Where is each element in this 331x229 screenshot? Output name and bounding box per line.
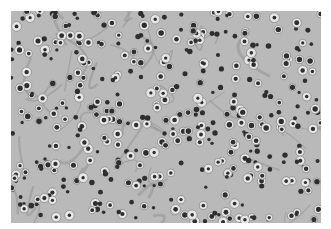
micrograph-image [11, 11, 321, 223]
tissue-texture [11, 11, 321, 223]
